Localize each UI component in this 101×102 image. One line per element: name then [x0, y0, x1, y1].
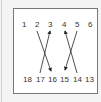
crossing-diagram: 1 2 3 4 5 6 18 17 16 15 14 13: [0, 0, 101, 102]
label-3: 3: [48, 20, 53, 29]
top-row-labels: 1 2 3 4 5 6: [22, 20, 93, 29]
label-16: 16: [48, 75, 57, 84]
label-4: 4: [62, 20, 67, 29]
label-17: 17: [36, 75, 45, 84]
label-6: 6: [88, 20, 93, 29]
label-15: 15: [60, 75, 69, 84]
arrows: [37, 31, 77, 73]
label-13: 13: [85, 75, 94, 84]
label-5: 5: [75, 20, 80, 29]
label-18: 18: [23, 75, 32, 84]
label-14: 14: [73, 75, 82, 84]
arrow-17-to-3: [40, 31, 50, 73]
label-2: 2: [35, 20, 40, 29]
label-1: 1: [22, 20, 27, 29]
bottom-row-labels: 18 17 16 15 14 13: [23, 75, 94, 84]
